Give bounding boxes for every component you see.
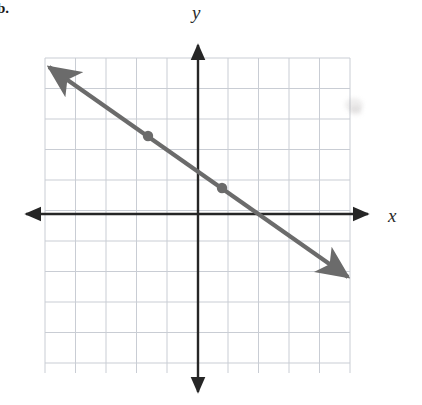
graph-figure: b. y x	[0, 0, 422, 405]
plotted-point	[143, 131, 153, 141]
coordinate-plane-svg	[0, 0, 422, 405]
plotted-point	[217, 183, 227, 193]
